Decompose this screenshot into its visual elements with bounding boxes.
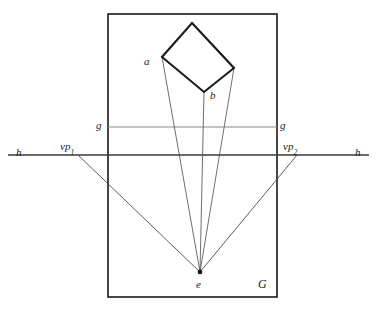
label-e: e [196,279,201,290]
label-vp2-base: vp [283,140,293,152]
label-a: a [144,56,150,67]
sight-line-e-to-bottom-vertex [200,92,204,272]
vanishing-ray-vp1-to-e [78,155,200,272]
label-b: b [210,90,216,101]
station-point-e-marker [198,270,203,275]
figure-canvas: a b e g g h h G vp1 vp2 [0,0,377,313]
label-vp2-subscript: 2 [293,148,297,157]
label-g-right: g [280,120,286,131]
label-h-right: h [355,147,361,158]
vanishing-ray-vp2-to-e [200,155,297,272]
label-vp2: vp2 [283,141,297,155]
perspective-diagram [0,0,377,313]
label-vp1-base: vp [60,140,70,152]
label-h-left: h [16,147,22,158]
sight-line-e-to-a [162,57,200,272]
label-vp1: vp1 [60,141,74,155]
plan-square-shape [162,23,234,92]
label-vp1-subscript: 1 [70,148,74,157]
sight-line-e-to-b [200,68,234,272]
label-G: G [258,278,267,290]
label-g-left: g [96,120,102,131]
